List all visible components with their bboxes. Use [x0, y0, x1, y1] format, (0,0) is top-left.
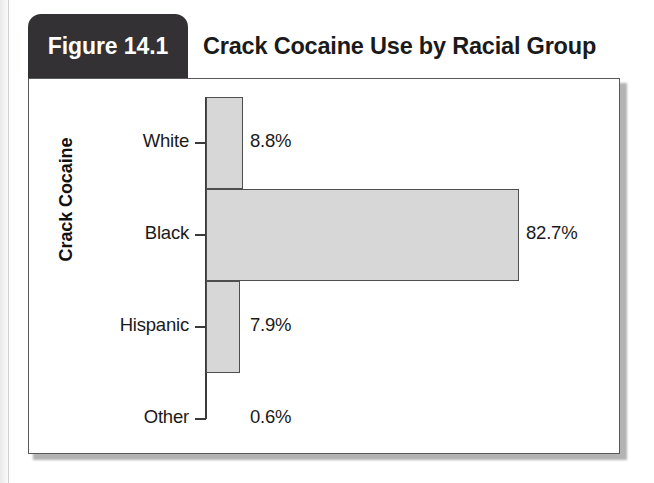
category-label-white: White	[29, 130, 189, 152]
chart-category-row: Black82.7%	[29, 189, 619, 281]
category-label-hispanic: Hispanic	[29, 314, 189, 336]
chart-category-row: Hispanic7.9%	[29, 281, 619, 373]
figure-title: Crack Cocaine Use by Racial Group	[203, 14, 596, 78]
figure-number-label: Figure 14.1	[48, 33, 168, 60]
bar-value-hispanic: 7.9%	[250, 314, 291, 336]
plot-area: Crack Cocaine White8.8%Black82.7%Hispani…	[29, 79, 619, 453]
axis-tick-hispanic	[195, 326, 206, 328]
bar-value-other: 0.6%	[250, 406, 291, 428]
bar-value-black: 82.7%	[526, 222, 577, 244]
chart-category-row: White8.8%	[29, 97, 619, 189]
axis-tick-black	[195, 234, 206, 236]
category-label-black: Black	[29, 222, 189, 244]
chart-category-row: Other0.6%	[29, 373, 619, 454]
bar-white	[206, 97, 243, 189]
category-label-other: Other	[29, 406, 189, 428]
bar-value-white: 8.8%	[250, 130, 291, 152]
axis-tick-white	[195, 142, 206, 144]
chart-frame: Crack Cocaine White8.8%Black82.7%Hispani…	[28, 78, 620, 454]
figure-number-tab: Figure 14.1	[28, 14, 188, 78]
bar-hispanic	[206, 281, 240, 373]
figure-header: Figure 14.1 Crack Cocaine Use by Racial …	[28, 14, 622, 80]
axis-tick-other	[195, 418, 206, 420]
bar-black	[206, 189, 519, 281]
page-edge-rule	[8, 0, 9, 483]
